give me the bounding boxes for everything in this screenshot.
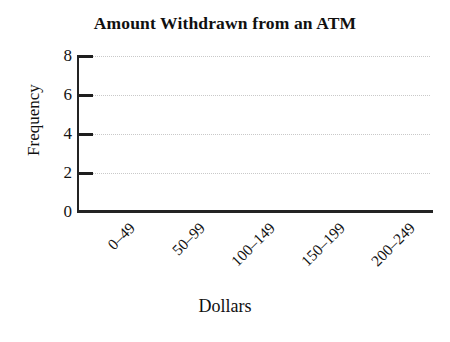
x-tick-label-1: 50–99 (139, 219, 208, 288)
bars-layer (78, 56, 432, 212)
y-tick-label-2: 2 (48, 164, 72, 181)
y-tick-label-6: 6 (48, 86, 72, 103)
x-tick-label-4: 200–249 (349, 219, 418, 288)
x-tick-label-3: 150–199 (279, 219, 348, 288)
y-tick-label-4: 4 (48, 125, 72, 142)
y-tick-label-8: 8 (48, 47, 72, 64)
y-tick-label-0: 0 (48, 203, 72, 220)
x-tick-label-2: 100–149 (209, 219, 278, 288)
plot-area (78, 56, 432, 212)
x-tick-label-0: 0–49 (69, 219, 138, 288)
y-axis-title: Frequency (24, 60, 44, 180)
x-axis-title: Dollars (0, 296, 450, 317)
chart-figure: Amount Withdrawn from an ATM 8 6 4 2 0 F… (0, 0, 450, 342)
chart-title: Amount Withdrawn from an ATM (0, 13, 450, 34)
